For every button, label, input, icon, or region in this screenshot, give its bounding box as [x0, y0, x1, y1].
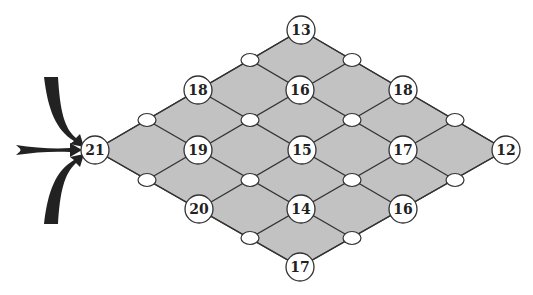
node-n-r3-right: 16 — [389, 195, 417, 223]
node-label: 17 — [393, 142, 412, 158]
node-label: 16 — [393, 201, 412, 217]
node-label: 19 — [188, 142, 207, 158]
node-label: 21 — [85, 142, 104, 158]
edge-oval — [343, 174, 361, 187]
edge-oval — [241, 174, 259, 187]
node-n-r2-c: 17 — [389, 136, 417, 164]
node-label: 14 — [291, 201, 311, 217]
node-label: 12 — [496, 142, 515, 158]
node-n-top: 13 — [287, 16, 315, 44]
edge-oval — [241, 54, 259, 67]
arrow-middle-icon — [16, 143, 82, 157]
edge-oval — [138, 174, 156, 187]
edge-oval — [138, 114, 156, 127]
arrow-top-icon — [44, 77, 84, 147]
node-label: 13 — [291, 22, 310, 38]
node-n-r3-left: 20 — [185, 195, 213, 223]
edge-oval — [241, 232, 259, 245]
node-n-bottom: 17 — [286, 253, 314, 281]
node-label: 17 — [290, 259, 309, 275]
node-label: 15 — [292, 142, 311, 158]
node-n-left: 21 — [81, 136, 109, 164]
node-n-r2-a: 19 — [184, 136, 212, 164]
node-label: 18 — [393, 82, 412, 98]
inbound-arrows — [16, 77, 84, 224]
edge-oval — [343, 232, 361, 245]
edge-oval — [343, 54, 361, 67]
lattice-diagram: 13 18 16 18 21 19 15 17 12 20 14 16 — [0, 0, 533, 295]
node-n-r1-mid: 16 — [286, 76, 314, 104]
node-n-right: 12 — [492, 136, 520, 164]
node-label: 16 — [290, 82, 309, 98]
node-label: 18 — [188, 82, 207, 98]
node-n-r3-mid: 14 — [287, 195, 315, 223]
node-label: 20 — [189, 201, 209, 217]
node-n-r2-b: 15 — [288, 136, 316, 164]
arrow-bottom-icon — [44, 154, 84, 224]
node-n-r1-left: 18 — [184, 76, 212, 104]
edge-oval — [343, 114, 361, 127]
edge-oval — [241, 114, 259, 127]
edge-oval — [446, 114, 464, 127]
node-n-r1-right: 18 — [389, 76, 417, 104]
edge-oval — [446, 174, 464, 187]
